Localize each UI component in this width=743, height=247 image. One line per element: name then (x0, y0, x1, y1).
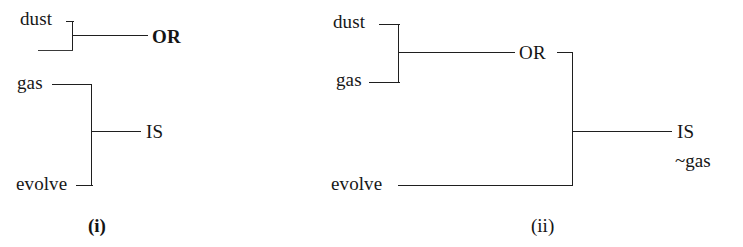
panel-ii-input-gas-label: gas (336, 70, 362, 89)
panel-i-input-gas-label: gas (17, 73, 43, 92)
panel-i-or-bracket-vertical (72, 21, 73, 51)
panel-ii-input-evolve-label: evolve (331, 174, 382, 193)
panel-ii-dust-wire (379, 24, 400, 25)
panel-i-evolve-wire (76, 185, 93, 186)
panel-i-input-dust-label: dust (20, 9, 52, 28)
figure-root: dust OR gas IS evolve (i) dust (0, 0, 743, 247)
panel-ii-input-dust-label: dust (333, 12, 365, 31)
panel-ii-or-output-wire (398, 52, 515, 53)
panel-ii-or-to-is-wire (557, 52, 573, 53)
panel-ii-evolve-wire (398, 185, 573, 186)
panel-i-is-gate-label: IS (146, 122, 163, 141)
panel-ii-or-bracket-vertical (398, 24, 399, 83)
panel-i-is-bracket-vertical (91, 84, 92, 186)
panel-ii-is-output-wire (572, 131, 672, 132)
panel-ii-negated-gas-label: ~gas (675, 151, 711, 170)
panel-ii-is-gate-label: IS (677, 122, 694, 141)
panel-i-caption: (i) (88, 216, 106, 235)
panel-i-gas-wire (52, 84, 92, 85)
panel-ii-gas-wire (369, 82, 400, 83)
panel-i-or-bracket-bottom-wire (38, 50, 73, 51)
panel-i-or-output-wire (72, 35, 148, 36)
panel-ii-or-gate-label: OR (519, 43, 546, 62)
panel-ii-caption: (ii) (531, 216, 554, 235)
panel-i-or-gate-label: OR (152, 27, 181, 46)
panel-ii-is-bracket-vertical (572, 52, 573, 186)
panel-i-input-evolve-label: evolve (16, 174, 67, 193)
panel-i-is-output-wire (91, 131, 141, 132)
